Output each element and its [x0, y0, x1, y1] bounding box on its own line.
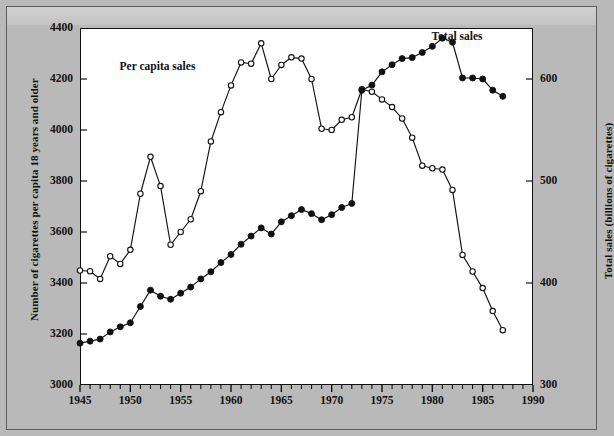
data-point-per-capita	[168, 242, 173, 247]
data-point-total-sales	[218, 260, 224, 266]
data-point-total-sales	[349, 200, 355, 206]
data-point-total-sales	[137, 303, 143, 309]
data-point-per-capita	[399, 116, 404, 121]
data-point-total-sales	[409, 55, 415, 61]
data-point-total-sales	[429, 43, 435, 49]
data-point-per-capita	[500, 327, 505, 332]
data-point-total-sales	[379, 69, 385, 75]
data-point-total-sales	[198, 276, 204, 282]
data-point-per-capita	[178, 229, 183, 234]
data-point-per-capita	[299, 56, 304, 61]
x-tick-label: 1985	[460, 394, 506, 406]
x-tick-label: 1975	[359, 394, 405, 406]
data-point-total-sales	[168, 296, 174, 302]
y-tick-label-right: 300	[540, 378, 584, 390]
data-point-total-sales	[208, 269, 214, 275]
y-axis-title-right: Total sales (billions of cigarettes)	[602, 81, 614, 321]
data-point-per-capita	[349, 115, 354, 120]
data-point-total-sales	[419, 49, 425, 55]
series-line-2	[80, 38, 503, 343]
data-point-total-sales	[309, 211, 315, 217]
data-point-per-capita	[259, 41, 264, 46]
data-point-total-sales	[490, 87, 496, 93]
data-point-per-capita	[329, 127, 334, 132]
data-point-total-sales	[500, 93, 506, 99]
data-point-total-sales	[258, 225, 264, 231]
data-point-total-sales	[178, 290, 184, 296]
x-tick-label: 1990	[510, 394, 556, 406]
data-point-per-capita	[188, 217, 193, 222]
data-point-total-sales	[480, 76, 486, 82]
data-point-total-sales	[359, 87, 365, 93]
y-tick-label-left: 3400	[29, 276, 73, 288]
data-point-total-sales	[97, 336, 103, 342]
data-point-total-sales	[228, 251, 234, 257]
data-point-per-capita	[148, 154, 153, 159]
data-point-total-sales	[329, 212, 335, 218]
x-tick-label: 1970	[309, 394, 355, 406]
x-tick-label: 1945	[57, 394, 103, 406]
data-point-per-capita	[228, 83, 233, 88]
data-point-per-capita	[410, 135, 415, 140]
series-label-per-capita: Per capita sales	[120, 60, 196, 72]
data-point-total-sales	[117, 324, 123, 330]
data-point-total-sales	[369, 82, 375, 88]
x-tick-label: 1955	[158, 394, 204, 406]
x-tick-label: 1980	[409, 394, 455, 406]
data-point-per-capita	[289, 55, 294, 60]
data-point-total-sales	[238, 241, 244, 247]
data-point-total-sales	[87, 338, 93, 344]
data-point-per-capita	[450, 187, 455, 192]
data-point-per-capita	[309, 76, 314, 81]
data-point-per-capita	[87, 269, 92, 274]
y-tick-label-left: 4000	[29, 123, 73, 135]
series-line-1	[80, 43, 503, 330]
data-point-total-sales	[319, 217, 325, 223]
y-tick-label-left: 3000	[29, 378, 73, 390]
data-point-per-capita	[389, 104, 394, 109]
data-point-per-capita	[77, 268, 82, 273]
data-point-per-capita	[490, 308, 495, 313]
data-point-per-capita	[97, 276, 102, 281]
data-point-total-sales	[278, 219, 284, 225]
data-point-per-capita	[138, 191, 143, 196]
data-point-per-capita	[238, 60, 243, 65]
data-point-total-sales	[389, 62, 395, 68]
y-tick-label-left: 3200	[29, 327, 73, 339]
data-point-per-capita	[339, 117, 344, 122]
data-point-total-sales	[399, 56, 405, 62]
data-point-per-capita	[430, 166, 435, 171]
y-tick-label-left: 4200	[29, 72, 73, 84]
data-point-per-capita	[158, 183, 163, 188]
data-point-total-sales	[339, 205, 345, 211]
data-point-per-capita	[379, 97, 384, 102]
data-point-per-capita	[480, 285, 485, 290]
data-point-per-capita	[208, 139, 213, 144]
data-point-total-sales	[268, 231, 274, 237]
data-point-total-sales	[248, 233, 254, 239]
y-tick-label-right: 500	[540, 174, 584, 186]
data-point-per-capita	[128, 247, 133, 252]
y-tick-label-right: 400	[540, 276, 584, 288]
data-point-total-sales	[298, 207, 304, 213]
y-tick-label-left: 3600	[29, 225, 73, 237]
data-point-per-capita	[440, 167, 445, 172]
data-point-total-sales	[77, 340, 83, 346]
y-tick-label-right: 600	[540, 72, 584, 84]
data-point-per-capita	[470, 269, 475, 274]
data-point-total-sales	[460, 75, 466, 81]
data-point-per-capita	[118, 261, 123, 266]
data-point-per-capita	[420, 163, 425, 168]
data-point-total-sales	[107, 329, 113, 335]
data-point-total-sales	[288, 213, 294, 219]
data-point-per-capita	[269, 76, 274, 81]
data-point-per-capita	[369, 89, 374, 94]
data-point-per-capita	[218, 109, 223, 114]
y-tick-label-left: 4400	[29, 21, 73, 33]
x-tick-label: 1960	[208, 394, 254, 406]
data-point-total-sales	[188, 284, 194, 290]
data-point-per-capita	[460, 252, 465, 257]
data-point-per-capita	[248, 61, 253, 66]
